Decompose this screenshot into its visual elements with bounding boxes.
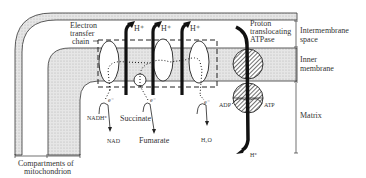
svg-text:ATPase: ATPase (250, 35, 275, 44)
fumarate-label: Fumarate (139, 136, 170, 145)
svg-text:chain: chain (72, 37, 89, 46)
intermembrane-label: Intermembrane (300, 26, 349, 35)
atp-label: ATP (264, 102, 275, 108)
matrix-label: Matrix (300, 111, 322, 120)
h-plus-label-matrix: H⁺ (250, 152, 257, 158)
svg-text:membrane: membrane (300, 64, 334, 73)
complex-iii (153, 39, 173, 81)
nadh-label: NADH⁺ (87, 115, 107, 121)
e-minus-label-1: e⁻ (108, 97, 114, 103)
compartment-brackets (294, 21, 298, 153)
inner-membrane-label: Inner (300, 55, 317, 64)
complex-iv (189, 41, 209, 83)
h2o-label: H₂O (201, 137, 212, 143)
e-minus-label-2: e⁻ (150, 97, 156, 103)
nad-label: NAD (107, 138, 121, 144)
svg-text:space: space (300, 35, 318, 44)
h-plus-label-2: H⁺ (161, 24, 171, 33)
h-plus-label-3: H⁺ (190, 24, 200, 33)
etc-label: Electron transfer chain (70, 21, 98, 46)
atp-synthase (233, 27, 263, 154)
mitochondrion-diagram: H⁺ H⁺ H⁺ H⁺ ADP ATP e⁻ e⁻ e⁻ NADH⁺ Succi… (0, 0, 366, 178)
adp-label: ADP (219, 102, 232, 108)
complex-i (99, 41, 119, 83)
succinate-label: Succinate (120, 114, 152, 123)
h-plus-label-1: H⁺ (134, 24, 144, 33)
svg-text:mitochondrion: mitochondrion (24, 167, 71, 176)
atpase-label: Proton translocating ATPase (250, 19, 291, 44)
